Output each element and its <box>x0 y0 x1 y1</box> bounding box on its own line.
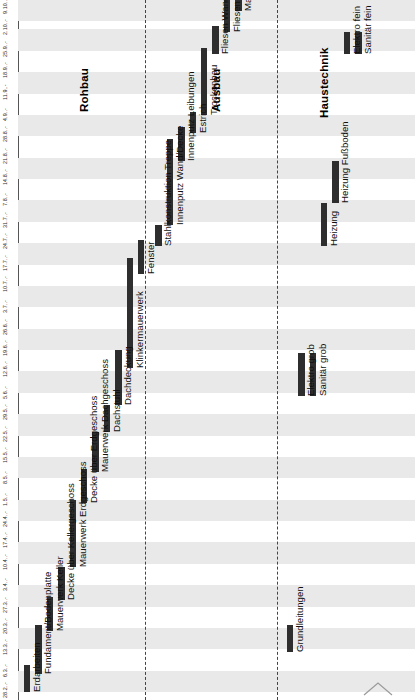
gridline-band <box>18 200 415 221</box>
task-label: Dachstuhl <box>112 390 122 433</box>
time-tick-label: 11.9..- <box>0 87 16 101</box>
time-tick-label: 7.8..- <box>0 193 16 207</box>
task-bar[interactable] <box>344 32 350 53</box>
task-label: Innenputz Leibungen <box>186 71 196 161</box>
time-tick-label: 3.7..- <box>0 300 16 314</box>
task-label: Sanitär grob <box>318 344 328 396</box>
gantt-chart-canvas: 28.2..-6.3..-13.3..-20.3..-27.3..-3.4..-… <box>0 0 415 700</box>
time-tick-label: 19.6..- <box>0 343 16 357</box>
time-tick-label: 8.5..- <box>0 471 16 485</box>
task-label: Dachdeckung <box>123 346 133 405</box>
task-label: Decke über Erdgeschoss <box>89 395 99 502</box>
task-label: Sanitär fein <box>363 5 373 54</box>
time-tick-label: 15.5..- <box>0 450 16 464</box>
task-label: Maler <box>243 0 253 11</box>
task-bar[interactable] <box>138 240 144 274</box>
gridline-band <box>18 628 415 649</box>
time-tick-label: 31.7..- <box>0 215 16 229</box>
task-bar[interactable] <box>332 161 338 204</box>
task-label: Heizung <box>329 211 339 246</box>
chevron-marker-icon <box>363 682 393 696</box>
task-label: Elektro grob <box>306 344 316 396</box>
task-label: Elektro fein <box>352 6 362 54</box>
time-tick-label: 24.4..- <box>0 514 16 528</box>
group-separator <box>145 0 146 700</box>
task-label: Grundleitungen <box>295 587 305 653</box>
time-tick-label: 18.9..- <box>0 65 16 79</box>
group-label: Rohbau <box>79 68 91 112</box>
time-tick-label: 3.4..- <box>0 578 16 592</box>
group-separator <box>277 0 278 700</box>
task-bar[interactable] <box>212 26 218 53</box>
task-label: Stahlkonstruktion Treppe <box>163 140 173 246</box>
group-label: Haustechnik <box>319 47 331 118</box>
task-label: Klinkermauerwerk <box>135 292 145 369</box>
time-tick-label: 10.4..- <box>0 557 16 571</box>
gridline-band <box>18 671 415 692</box>
task-label: Fenster <box>146 241 156 274</box>
gridline-band <box>18 414 415 435</box>
time-tick-label: 17.7..- <box>0 258 16 272</box>
group-label: Ausbau <box>211 69 223 112</box>
time-tick-label: 1.5..- <box>0 493 16 507</box>
time-tick-label: 28.2..- <box>0 685 16 699</box>
time-tick-label: 21.8..- <box>0 151 16 165</box>
time-tick-label: 17.4..- <box>0 535 16 549</box>
time-tick-label: 6.3..- <box>0 664 16 678</box>
task-label: Decke über Kellergeschoss <box>66 484 76 601</box>
task-label: Mauerwerk Keller <box>55 556 65 631</box>
time-tick-label: 26.6..- <box>0 322 16 336</box>
time-tick-label: 9.10..- <box>0 1 16 15</box>
time-tick-label: 28.8..- <box>0 129 16 143</box>
gridline-band <box>18 585 415 606</box>
gridline-band <box>18 286 415 307</box>
task-bar[interactable] <box>24 665 30 692</box>
time-tick-label: 20.3..- <box>0 621 16 635</box>
task-bar[interactable] <box>287 625 293 652</box>
time-tick-label: 29.5..- <box>0 407 16 421</box>
time-tick-label: 12.6..- <box>0 364 16 378</box>
time-tick-label: 4.9..- <box>0 108 16 122</box>
time-tick-label: 10.7..- <box>0 279 16 293</box>
time-tick-label: 27.3..- <box>0 600 16 614</box>
task-label: Fliesen Boden <box>232 0 242 32</box>
task-bar[interactable] <box>155 225 161 246</box>
gridline-band <box>18 115 415 136</box>
task-label: Estrich <box>198 104 208 133</box>
task-bar[interactable] <box>298 353 304 396</box>
time-tick-label: 25.9..- <box>0 44 16 58</box>
time-tick-label: 24.7..- <box>0 236 16 250</box>
time-tick-label: 5.6..- <box>0 386 16 400</box>
task-bar[interactable] <box>321 203 327 246</box>
gantt-plot-area: ErdarbeitenFundament/BodenplatteMauerwer… <box>18 0 415 700</box>
time-tick-label: 14.8..- <box>0 172 16 186</box>
gridline-band <box>18 158 415 179</box>
task-label: Mauerwerk Dachgeschoss <box>100 359 110 472</box>
task-label: Fundament/Bodenplatte <box>43 571 53 673</box>
time-tick-label: 2.10..- <box>0 22 16 36</box>
gridline-band <box>18 371 415 392</box>
task-label: Fliesen Wand <box>220 0 230 54</box>
time-tick-label: 22.5..- <box>0 429 16 443</box>
gridline-band <box>18 329 415 350</box>
task-label: Innenputz Wand/Decke <box>175 125 185 224</box>
task-label: Heizung Fußboden <box>340 122 350 204</box>
gridline-band <box>18 243 415 264</box>
task-label: Erdarbeiten <box>32 642 42 692</box>
time-tick-label: 13.3..- <box>0 642 16 656</box>
task-label: Mauerwerk Erdgeschoss <box>78 461 88 567</box>
